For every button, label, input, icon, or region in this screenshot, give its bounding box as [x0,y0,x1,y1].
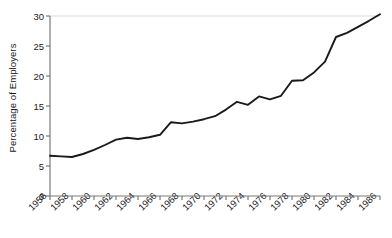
x-axis-ticks [50,196,380,200]
axis-lines [50,16,380,196]
data-series-line [50,14,380,157]
line-chart: Percentage of Employers 051015202530 195… [0,0,392,238]
plot-area [0,0,392,238]
